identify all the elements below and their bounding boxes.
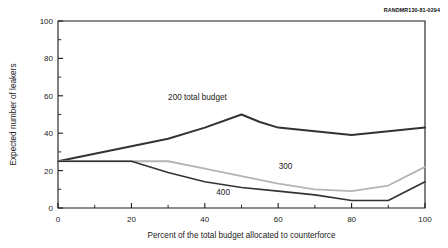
y-tick-label-80: 80 — [44, 54, 53, 63]
series-line-400 — [58, 161, 425, 200]
x-tick-label-20: 20 — [127, 215, 136, 224]
figure-container: RANDMR130-81-0294 0204060801000204060801… — [0, 0, 448, 248]
series-annotation-400: 400 — [216, 188, 230, 197]
y-tick-label-60: 60 — [44, 92, 53, 101]
x-tick-label-0: 0 — [56, 215, 61, 224]
y-tick-label-40: 40 — [44, 129, 53, 138]
x-tick-label-40: 40 — [200, 215, 209, 224]
y-tick-label-20: 20 — [44, 167, 53, 176]
series-annotation-200-total-budget: 200 total budget — [168, 93, 227, 102]
y-axis-title: Expected number of leakers — [9, 64, 18, 166]
x-tick-label-100: 100 — [418, 215, 432, 224]
y-tick-label-0: 0 — [49, 204, 54, 213]
y-tick-label-100: 100 — [40, 17, 54, 26]
x-tick-label-80: 80 — [347, 215, 356, 224]
series-annotation-300: 300 — [279, 162, 293, 171]
x-tick-label-60: 60 — [274, 215, 283, 224]
series-line-200-total-budget — [58, 115, 425, 162]
x-axis-title: Percent of the total budget allocated to… — [148, 231, 336, 240]
line-chart: 020406080100020406080100Percent of the t… — [0, 0, 448, 248]
